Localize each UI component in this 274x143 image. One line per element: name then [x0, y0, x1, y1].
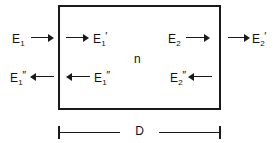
field-base-symbol: E	[12, 32, 20, 46]
arrow-head	[188, 73, 194, 81]
refractive-index-label: n	[134, 53, 141, 65]
field-label-transmitted-right: E2′	[252, 31, 266, 48]
field-label-internal-backward-left: E1″	[94, 70, 110, 87]
arrow-shaft	[35, 76, 54, 77]
field-base-symbol: E	[93, 32, 101, 46]
field-base-symbol: E	[252, 32, 260, 46]
field-label-internal-forward-left: E1′	[93, 31, 107, 48]
arrow-head	[48, 34, 54, 42]
thickness-dimension-line: D	[58, 126, 221, 139]
arrow-head	[204, 34, 210, 42]
field-prime: ″	[22, 69, 26, 81]
field-prime: ″	[182, 69, 186, 81]
arrow-head	[30, 73, 36, 81]
field-prime: ″	[106, 69, 110, 81]
field-prime: ′	[264, 30, 266, 42]
arrow-shaft	[66, 37, 84, 38]
thickness-label: D	[58, 125, 221, 137]
arrow-internal-backward-left-left	[66, 72, 90, 81]
arrow-reflected-left-left	[30, 72, 54, 81]
dimension-tick-right	[219, 126, 221, 139]
arrow-internal-forward-left-right	[66, 33, 89, 42]
arrow-shaft	[186, 37, 205, 38]
arrow-head	[244, 34, 250, 42]
field-base-symbol: E	[94, 71, 102, 85]
arrow-incident-left-right	[31, 33, 54, 42]
arrow-transmitted-right-right	[228, 33, 250, 42]
optics-slab-figure: n E1 E1′ E2 E2′ E1″	[0, 0, 274, 143]
field-label-reflected-left: E1″	[10, 70, 26, 87]
arrow-internal-backward-right-left	[188, 72, 212, 81]
arrow-shaft	[193, 76, 212, 77]
field-label-incident-left: E1	[12, 31, 24, 48]
field-subscript: 1	[20, 39, 24, 48]
arrow-shaft	[31, 37, 49, 38]
arrow-internal-forward-right-right	[186, 33, 210, 42]
field-base-symbol: E	[168, 32, 176, 46]
arrow-shaft	[228, 37, 245, 38]
arrow-shaft	[71, 76, 90, 77]
field-prime: ′	[105, 30, 107, 42]
field-base-symbol: E	[170, 71, 178, 85]
field-base-symbol: E	[10, 71, 18, 85]
field-subscript: 2	[176, 39, 180, 48]
arrow-head	[83, 34, 89, 42]
arrow-head	[66, 73, 72, 81]
dimension-rule-right	[159, 132, 221, 133]
field-label-internal-forward-right: E2	[168, 31, 180, 48]
field-label-internal-backward-right: E2″	[170, 70, 186, 87]
